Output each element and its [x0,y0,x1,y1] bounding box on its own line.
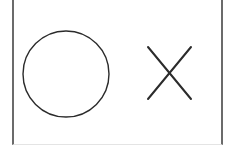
board [0,0,225,148]
cross-icon [148,47,191,99]
circle-icon [23,31,109,117]
